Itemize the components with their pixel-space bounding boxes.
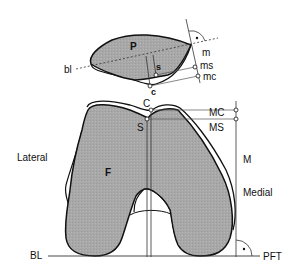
label-c: c [151, 87, 156, 97]
label-MS: MS [209, 122, 224, 133]
label-ms: ms [200, 60, 213, 71]
label-lateral: Lateral [17, 152, 48, 163]
label-MC: MC [209, 107, 225, 118]
label-patella: P [130, 41, 137, 52]
point-S [145, 117, 149, 121]
label-M: M [243, 154, 251, 165]
femur: F C S MC MS M [65, 98, 251, 257]
label-C: C [143, 98, 150, 109]
label-medial: Medial [243, 187, 272, 198]
label-s: s [156, 62, 161, 72]
label-m: m [202, 47, 210, 58]
point-MS [234, 117, 238, 121]
right-angle-marker-top [189, 31, 205, 41]
label-BL: BL [30, 250, 43, 261]
label-PFT: PFT [263, 251, 282, 262]
label-bl: bl [64, 64, 72, 75]
label-S: S [137, 122, 144, 133]
diagram-canvas: P bl m ms mc s c [0, 0, 293, 276]
point-ms [193, 65, 197, 69]
point-MC [234, 108, 238, 112]
knee-measurement-diagram: P bl m ms mc s c [0, 0, 293, 276]
point-mc [196, 74, 200, 78]
point-s [154, 73, 158, 77]
right-angle-dot-bottom [243, 248, 245, 250]
right-angle-dot-top [196, 37, 198, 39]
patella: P bl m ms mc s c [64, 19, 218, 97]
label-femur: F [105, 167, 111, 178]
label-mc: mc [203, 71, 216, 82]
